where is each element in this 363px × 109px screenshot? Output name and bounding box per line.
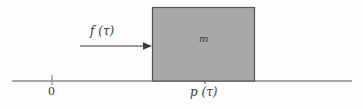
position-label: p (τ) (190, 86, 218, 98)
origin-label: 0 (48, 86, 55, 97)
figure-container: f (τ) m 0 p (τ) (0, 0, 363, 109)
force-arrow-head (143, 42, 152, 50)
force-label: f (τ) (90, 25, 114, 37)
mass-label: m (199, 34, 208, 44)
mass-block-rect (153, 8, 255, 82)
